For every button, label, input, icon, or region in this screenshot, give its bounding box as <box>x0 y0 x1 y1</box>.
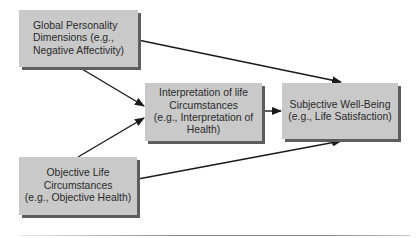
node-line: Circumstances <box>169 100 238 112</box>
node-line: Circumstances <box>44 180 113 192</box>
edge-objective-to-interpretation <box>78 118 144 157</box>
node-objective-life: Objective Life Circumstances (e.g., Obje… <box>19 157 137 215</box>
node-subjective-wellbeing: Subjective Well-Being (e.g., Life Satisf… <box>282 83 398 139</box>
node-line: Dimensions (e.g., <box>33 32 138 44</box>
node-line: Interpretation of life <box>159 87 248 99</box>
node-line: (e.g., Life Satisfaction) <box>288 111 391 123</box>
edge-global-to-wellbeing <box>138 40 341 82</box>
node-line: Health) <box>187 124 221 136</box>
node-global-personality: Global Personality Dimensions (e.g., Neg… <box>19 10 138 67</box>
edge-global-to-interpretation <box>82 69 144 106</box>
node-line: Global Personality <box>33 20 138 32</box>
node-line: (e.g., Objective Health) <box>25 192 131 204</box>
node-line: Negative Affectivity) <box>33 45 138 57</box>
edge-objective-to-wellbeing <box>138 141 341 179</box>
bottom-rule <box>20 235 410 236</box>
node-line: (e.g., Interpretation of <box>154 112 253 124</box>
node-interpretation: Interpretation of life Circumstances (e.… <box>145 83 262 141</box>
node-line: Subjective Well-Being <box>290 99 391 111</box>
node-line: Objective Life <box>47 167 110 179</box>
